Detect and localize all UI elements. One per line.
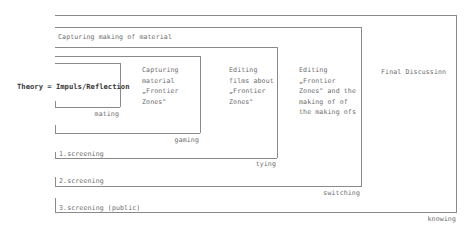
switching-label: switching [310,189,360,197]
phase-capturing-material: Capturing material „Frontier Zones" [142,65,179,107]
mating-box-top [55,63,120,64]
theory-label: Theory = Impuls/Reflection [17,82,130,91]
gaming-box-top [55,56,200,57]
tying-box-bottom [55,158,277,159]
knowing-box-right [456,15,457,212]
nested-process-diagram: Capturing making of material Theory = Im… [0,0,472,231]
screening-3-label: 3.screening (public) [59,204,140,212]
gaming-box-bottom [55,133,200,134]
knowing-box-top [55,15,457,16]
mating-box-bottom [55,107,120,108]
screening-2-label: 2.screening [59,177,104,185]
phase-editing-films: Editing films about „Frontier Zones" [229,65,274,107]
switching-box-bottom [55,186,362,187]
switching-box-right [361,27,362,186]
mating-label: mating [86,110,119,118]
phase-editing-frontier-zones: Editing „Frontier Zones" and the making … [299,65,356,118]
screening-1-label: 1.screening [59,150,104,158]
tying-label: tying [240,160,276,168]
header-band-bottom [55,47,277,48]
tying-box-left-stub [55,152,56,158]
switching-box-left-stub [55,177,56,186]
knowing-box-left-stub [55,198,56,212]
gaming-box-left-stub [55,125,56,133]
header-band-label: Capturing making of material [58,33,172,41]
switching-box-top [55,27,362,28]
gaming-box-right [200,56,201,133]
phase-final-discussion: Final Discussion [381,67,446,78]
mating-box-left-stub [55,101,56,107]
tying-box-right [277,47,278,158]
knowing-box-bottom [55,212,457,213]
knowing-label: knowing [410,215,456,223]
gaming-label: gaming [160,136,199,144]
